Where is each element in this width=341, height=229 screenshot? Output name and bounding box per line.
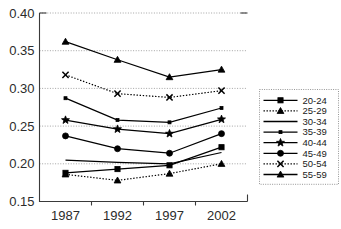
y-tick-label: 0.35 [9,43,34,58]
marker-dot [168,121,171,124]
marker-circle [63,133,69,139]
chart-legend: 20-2425-2930-3435-3940-4445-4950-5455-59 [260,90,339,185]
marker-star [166,129,174,137]
series-line-25-29 [66,164,222,181]
y-tick-label: 0.25 [9,119,34,134]
marker-circle [115,146,121,152]
series-line-55-59 [66,42,222,77]
legend-label-50-54: 50-54 [303,158,327,169]
y-axis-tick-labels: 0.150.200.250.300.350.40 [9,6,34,210]
series-45-49 [63,131,225,157]
legend-label-30-34: 30-34 [303,116,327,127]
marker-square [219,145,224,150]
series-line-50-54 [66,75,222,98]
series-55-59 [62,38,225,79]
legend-label-25-29: 25-29 [303,105,327,116]
series-35-39 [64,97,223,124]
legend-label-45-49: 45-49 [303,148,327,159]
series-line-45-49 [66,134,222,154]
marker-circle [219,131,225,137]
line-chart: 0.150.200.250.300.350.40 198719921997200… [0,0,341,229]
series-line-30-34 [66,152,222,163]
x-tick-label: 1987 [51,208,80,223]
marker-dot [279,131,282,134]
y-tick-label: 0.20 [9,156,34,171]
marker-square [115,166,120,171]
y-tick-label: 0.30 [9,81,34,96]
marker-circle [167,150,173,156]
marker-triangle [166,170,173,176]
legend-label-20-24: 20-24 [303,95,327,106]
marker-triangle [218,66,225,72]
x-axis-tick-labels: 1987199219972002 [51,202,236,223]
axes-group [40,13,248,202]
axis-spines [40,13,248,202]
marker-x [114,91,120,97]
marker-square [278,98,283,103]
series-20-24 [63,145,224,176]
legend-label-40-44: 40-44 [303,137,327,148]
marker-star [62,116,70,124]
x-tick-label: 2002 [207,208,236,223]
marker-x [62,72,68,78]
marker-circle [278,150,284,156]
series-50-54 [62,72,224,101]
legend-label-35-39: 35-39 [303,126,327,137]
gridlines-group [40,13,248,202]
x-tick-label: 1992 [103,208,132,223]
data-series-group [62,38,226,183]
chart-canvas: 0.150.200.250.300.350.40 198719921997200… [0,0,341,229]
marker-dot [116,119,119,122]
marker-dot [220,107,223,110]
series-line-35-39 [66,98,222,122]
y-tick-label: 0.15 [9,194,34,209]
marker-triangle [62,38,69,44]
marker-star [218,115,226,123]
series-30-34 [66,152,222,163]
x-tick-label: 1997 [155,208,184,223]
y-tick-label: 0.40 [9,6,34,21]
legend-label-55-59: 55-59 [303,169,327,180]
marker-dot [64,97,67,100]
